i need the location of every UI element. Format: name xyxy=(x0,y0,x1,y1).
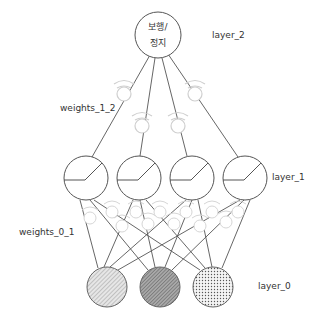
layer-0-label: layer_0 xyxy=(258,281,291,291)
output-label-line2: 정지 xyxy=(138,35,178,51)
hidden-node-4 xyxy=(223,156,267,200)
input-node-1 xyxy=(87,267,127,307)
hidden-node-1 xyxy=(64,156,108,200)
weights-1-2-label: weights_1_2 xyxy=(60,103,116,113)
hidden-node-2 xyxy=(117,156,161,200)
layer-2-label: layer_2 xyxy=(212,30,245,40)
weight-icons-0-1 xyxy=(82,201,246,232)
weight-icons-1-2 xyxy=(114,81,205,134)
weight-icon xyxy=(114,81,134,102)
weight-icon xyxy=(132,113,152,134)
output-label-line1: 보행/ xyxy=(138,19,178,35)
layer-1-nodes xyxy=(64,156,267,200)
hidden-node-3 xyxy=(170,156,214,200)
input-node-2 xyxy=(140,267,180,307)
output-node-label: 보행/ 정지 xyxy=(138,19,178,51)
input-node-3 xyxy=(193,267,233,307)
layer-0-nodes xyxy=(87,267,233,307)
layer-1-label: layer_1 xyxy=(272,172,305,182)
weight-icon xyxy=(168,113,188,134)
weights-0-1-label: weights_0_1 xyxy=(19,227,75,237)
